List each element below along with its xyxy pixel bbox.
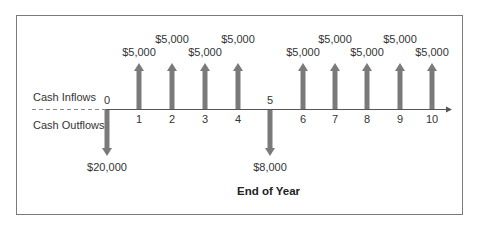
- inflow-amount-y4: $5,000: [221, 33, 255, 45]
- tick-year-1: 1: [136, 113, 142, 125]
- inflow-arrow-icon: [330, 63, 340, 109]
- tick-year-10: 10: [426, 113, 438, 125]
- inflow-arrows: [134, 63, 437, 109]
- tick-year-2: 2: [169, 113, 175, 125]
- inflow-arrow-icon: [298, 63, 308, 109]
- inflow-amount-y7: $5,000: [318, 33, 352, 45]
- outflow-arrows: [102, 110, 275, 156]
- x-axis-title: End of Year: [237, 185, 300, 197]
- outflow-arrow-icon: [102, 110, 112, 156]
- inflow-amount-y6: $5,000: [286, 46, 320, 58]
- inflow-arrow-icon: [134, 63, 144, 109]
- inflow-amount-y8: $5,000: [350, 46, 384, 58]
- tick-year-5: 5: [267, 94, 273, 106]
- inflow-amount-y10: $5,000: [415, 46, 449, 58]
- inflow-amount-y3: $5,000: [188, 46, 222, 58]
- tick-year-0: 0: [104, 94, 110, 106]
- tick-year-3: 3: [202, 113, 208, 125]
- inflow-amount-y9: $5,000: [383, 33, 417, 45]
- cash-inflows-label: Cash Inflows: [33, 91, 96, 103]
- tick-year-9: 9: [397, 113, 403, 125]
- inflow-amount-y2: $5,000: [155, 33, 189, 45]
- tick-year-4: 4: [235, 113, 241, 125]
- outflow-arrow-icon: [265, 110, 275, 156]
- inflow-arrow-icon: [167, 63, 177, 109]
- outflow-amount-y0: $20,000: [87, 161, 127, 173]
- inflow-arrow-icon: [427, 63, 437, 109]
- inflow-arrow-icon: [200, 63, 210, 109]
- inflow-arrow-icon: [362, 63, 372, 109]
- outflow-amount-y5: $8,000: [253, 161, 287, 173]
- cash-outflows-label: Cash Outflows: [33, 119, 105, 131]
- inflow-arrow-icon: [233, 63, 243, 109]
- tick-year-8: 8: [364, 113, 370, 125]
- tick-year-7: 7: [332, 113, 338, 125]
- inflow-amount-y1: $5,000: [122, 46, 156, 58]
- tick-year-6: 6: [300, 113, 306, 125]
- axis-arrow-icon: [446, 107, 452, 113]
- inflow-arrow-icon: [395, 63, 405, 109]
